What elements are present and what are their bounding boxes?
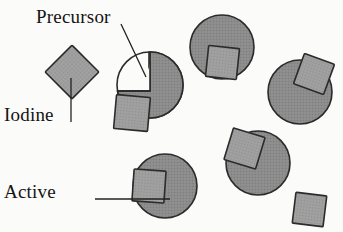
shape-free-square-iodine	[45, 45, 99, 99]
label-hormone-line-1: Active	[4, 181, 73, 202]
shape-bound-circle-midright	[224, 128, 290, 195]
label-active-thyroid-hormone: Active thyroid hormone	[4, 139, 73, 232]
shape-bound-circle-right	[268, 53, 335, 124]
shape-free-square-3	[292, 192, 327, 227]
shape-free-square-2	[114, 95, 151, 132]
leader-line-precursor	[121, 24, 146, 77]
shape-bound-circle-bottom	[132, 154, 197, 218]
thyroid-hormone-diagram: Precursor Iodine Active thyroid hormone	[0, 0, 343, 232]
label-iodine: Iodine	[4, 104, 54, 125]
label-precursor: Precursor	[36, 6, 111, 27]
shape-bound-circle-topmid	[190, 15, 254, 80]
